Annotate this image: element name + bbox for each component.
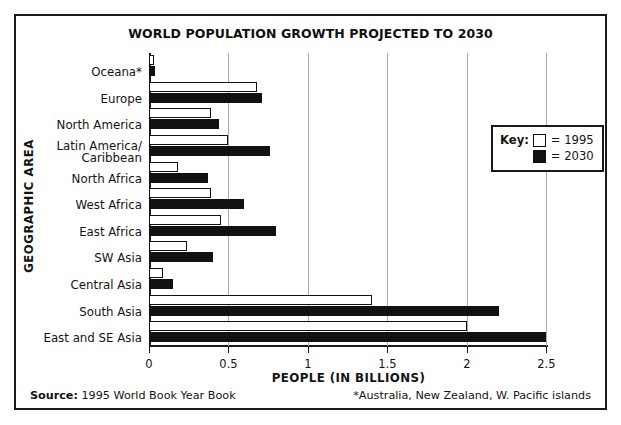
bar-2030 xyxy=(149,252,213,262)
legend-swatch-2030 xyxy=(533,150,546,163)
chart-figure: WORLD POPULATION GROWTH PROJECTED TO 203… xyxy=(14,14,607,410)
plot-area: 00.511.522.5 Oceana*EuropeNorth AmericaL… xyxy=(149,53,548,346)
bar-1995 xyxy=(149,135,228,145)
x-tick-label: 1.5 xyxy=(378,357,396,371)
category-label: East and SE Asia xyxy=(43,332,142,345)
bar-group: SW Asia xyxy=(149,241,548,268)
bar-group: East Africa xyxy=(149,215,548,242)
chart-legend: Key: = 1995 Key: = 2030 xyxy=(491,125,604,172)
category-label: SW Asia xyxy=(94,252,142,265)
bar-group: Central Asia xyxy=(149,268,548,295)
bar-group: East and SE Asia xyxy=(149,321,548,348)
bar-2030 xyxy=(149,332,546,342)
category-label: Latin America/ Caribbean xyxy=(56,140,142,165)
category-label: South Asia xyxy=(79,306,142,319)
bar-group: South Asia xyxy=(149,295,548,322)
category-label: Central Asia xyxy=(71,279,142,292)
legend-label-2030: = 2030 xyxy=(551,149,594,163)
category-label: North Africa xyxy=(72,173,142,186)
bar-2030 xyxy=(149,146,270,156)
y-axis-title-text: GEOGRAPHIC AREA xyxy=(22,106,36,306)
source-value: 1995 World Book Year Book xyxy=(78,389,236,402)
bar-1995 xyxy=(149,215,221,225)
bar-1995 xyxy=(149,241,187,251)
x-tick-label: 2 xyxy=(463,357,470,371)
source-label: Source: xyxy=(30,389,78,402)
bar-1995 xyxy=(149,295,372,305)
bar-2030 xyxy=(149,226,276,236)
source-line: Source: 1995 World Book Year Book xyxy=(30,389,236,402)
legend-swatch-1995 xyxy=(533,134,546,147)
bar-1995 xyxy=(149,82,257,92)
category-label: Oceana* xyxy=(91,66,142,79)
bar-1995 xyxy=(149,162,178,172)
category-label: Europe xyxy=(101,93,143,106)
footnote: *Australia, New Zealand, W. Pacific isla… xyxy=(353,389,591,402)
bar-group: North America xyxy=(149,108,548,135)
category-label: East Africa xyxy=(79,226,142,239)
bar-2030 xyxy=(149,119,219,129)
bar-2030 xyxy=(149,199,244,209)
bar-2030 xyxy=(149,93,262,103)
bar-group: Oceana* xyxy=(149,55,548,82)
bar-2030 xyxy=(149,279,173,289)
legend-row: Key: = 1995 xyxy=(500,132,594,148)
bar-group: Europe xyxy=(149,82,548,109)
bar-2030 xyxy=(149,306,499,316)
category-label: West Africa xyxy=(76,199,142,212)
x-axis-title: PEOPLE (IN BILLIONS) xyxy=(149,371,548,385)
bar-group: West Africa xyxy=(149,188,548,215)
legend-label-1995: = 1995 xyxy=(551,133,594,147)
x-tick-label: 1 xyxy=(304,357,311,371)
bar-1995 xyxy=(149,188,211,198)
legend-key-label: Key: xyxy=(500,133,529,147)
legend-row: Key: = 2030 xyxy=(500,148,594,164)
category-label: North America xyxy=(57,119,142,132)
bar-2030 xyxy=(149,66,155,76)
x-tick-label: 0.5 xyxy=(219,357,237,371)
bar-1995 xyxy=(149,268,163,278)
bar-1995 xyxy=(149,321,467,331)
y-axis-title: GEOGRAPHIC AREA xyxy=(22,106,38,306)
bar-1995 xyxy=(149,108,211,118)
x-tick-label: 0 xyxy=(145,357,152,371)
x-tick-label: 2.5 xyxy=(537,357,555,371)
chart-title: WORLD POPULATION GROWTH PROJECTED TO 203… xyxy=(16,26,605,41)
bar-2030 xyxy=(149,173,208,183)
chart-footer: Source: 1995 World Book Year Book *Austr… xyxy=(16,389,605,402)
bar-1995 xyxy=(149,55,154,65)
bar-group: North Africa xyxy=(149,162,548,189)
bar-group: Latin America/ Caribbean xyxy=(149,135,548,162)
